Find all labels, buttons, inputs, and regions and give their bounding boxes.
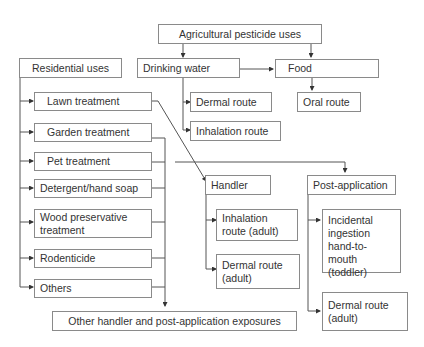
garden-treatment-box: Garden treatment [34,123,152,142]
rodenticide-label: Rodenticide [40,252,95,265]
others-box: Others [34,279,152,298]
agricultural-root-label: Agricultural pesticide uses [179,28,301,41]
agricultural-pesticide-uses-box: Agricultural pesticide uses [158,24,322,44]
oral-route-box: Oral route [297,92,361,112]
post-application-box: Post-application [307,175,396,195]
drinking-water-label: Drinking water [143,62,210,75]
other-exposures-label: Other handler and post-application expos… [68,315,280,328]
garden-treatment-label: Garden treatment [47,126,129,139]
incidental-ingestion-box: Incidental ingestion hand-to-mouth (todd… [322,209,401,273]
detergent-hand-soap-box: Detergent/hand soap [34,179,152,198]
handler-inhalation-label: Inhalation route (adult) [222,212,292,238]
food-box: Food [275,59,379,78]
handler-label: Handler [211,179,248,192]
lawn-treatment-box: Lawn treatment [34,92,152,111]
lawn-treatment-label: Lawn treatment [47,95,119,108]
pet-treatment-label: Pet treatment [47,155,110,168]
rodenticide-box: Rodenticide [34,249,152,268]
handler-dermal-label: Dermal route (adult) [222,259,294,285]
others-label: Others [40,282,72,295]
dermal-route-box: Dermal route [190,92,272,112]
incidental-ingestion-label: Incidental ingestion hand-to-mouth (todd… [328,214,395,279]
drinking-water-box: Drinking water [137,58,240,78]
post-application-label: Post-application [313,179,388,192]
inhalation-route-box: Inhalation route [190,121,281,141]
detergent-hand-soap-label: Detergent/hand soap [40,182,138,195]
handler-inhalation-box: Inhalation route (adult) [216,209,298,241]
wood-preservative-box: Wood preservative treatment [34,209,152,238]
other-exposures-box: Other handler and post-application expos… [52,311,297,331]
post-application-dermal-box: Dermal route (adult) [322,292,408,331]
handler-dermal-box: Dermal route (adult) [216,254,300,289]
oral-route-label: Oral route [303,96,350,109]
handler-box: Handler [205,175,271,195]
pet-treatment-box: Pet treatment [34,152,152,171]
post-application-dermal-label: Dermal route (adult) [328,299,402,325]
inhalation-route-label: Inhalation route [196,125,268,138]
dermal-route-label: Dermal route [196,96,257,109]
food-label: Food [288,62,312,75]
residential-uses-box: Residential uses [19,58,122,78]
residential-root-label: Residential uses [32,62,109,75]
wood-preservative-label: Wood preservative treatment [40,211,146,237]
